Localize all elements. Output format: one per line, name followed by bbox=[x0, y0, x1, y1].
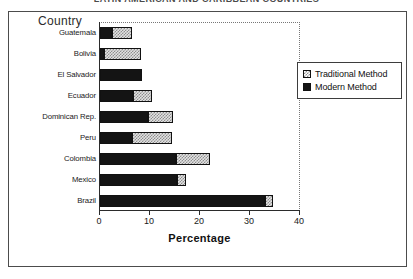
category-label: Ecuador bbox=[7, 91, 96, 100]
bar-segment-traditional bbox=[177, 174, 186, 186]
bar-segment-modern bbox=[100, 90, 133, 102]
legend-label-traditional: Traditional Method bbox=[315, 69, 387, 79]
bar-row bbox=[100, 69, 300, 81]
category-label: Mexico bbox=[7, 175, 96, 184]
category-label: El Salvador bbox=[7, 70, 96, 79]
x-axis-tick-label: 40 bbox=[287, 216, 311, 226]
x-axis-tick bbox=[299, 211, 300, 215]
x-axis-tick-label: 0 bbox=[87, 216, 111, 226]
bar-segment-modern bbox=[100, 111, 148, 123]
category-label: Dominican Rep. bbox=[7, 112, 96, 121]
bar-segment-traditional bbox=[132, 132, 172, 144]
bar-segment-traditional bbox=[148, 111, 173, 123]
category-label: Peru bbox=[7, 133, 96, 142]
bar-segment-traditional bbox=[265, 195, 273, 207]
x-axis-tick bbox=[199, 211, 200, 215]
bar-segment-modern bbox=[100, 195, 265, 207]
bar-row bbox=[100, 90, 300, 102]
chart-title: LATIN AMERICAN AND CARIBBEAN COUNTRIES bbox=[0, 0, 413, 3]
bar-segment-traditional bbox=[133, 90, 152, 102]
bar-row bbox=[100, 195, 300, 207]
bar-row bbox=[100, 153, 300, 165]
x-axis-tick bbox=[149, 211, 150, 215]
traditional-swatch-icon bbox=[303, 70, 311, 78]
bar-segment-modern bbox=[100, 153, 176, 165]
x-axis-tick bbox=[249, 211, 250, 215]
category-axis-labels: GuatemalaBoliviaEl SalvadorEcuadorDomini… bbox=[0, 22, 96, 211]
bar-segment-modern bbox=[100, 132, 132, 144]
bar-segment-traditional bbox=[176, 153, 210, 165]
bar-segment-modern bbox=[100, 69, 142, 81]
bar-row bbox=[100, 27, 300, 39]
category-label: Guatemala bbox=[7, 28, 96, 37]
bar-row bbox=[100, 111, 300, 123]
bars-layer bbox=[100, 22, 300, 211]
modern-swatch-icon bbox=[303, 83, 311, 91]
bar-segment-traditional bbox=[104, 48, 141, 60]
bar-segment-modern bbox=[100, 27, 112, 39]
x-axis-title: Percentage bbox=[99, 232, 300, 244]
bar-segment-traditional bbox=[112, 27, 132, 39]
bar-row bbox=[100, 132, 300, 144]
legend-label-modern: Modern Method bbox=[315, 82, 377, 92]
chart-screenshot: LATIN AMERICAN AND CARIBBEAN COUNTRIES C… bbox=[0, 0, 413, 279]
x-axis-tick-label: 30 bbox=[237, 216, 261, 226]
legend-item-traditional: Traditional Method bbox=[303, 67, 396, 80]
category-label: Colombia bbox=[7, 154, 96, 163]
category-label: Brazil bbox=[7, 196, 96, 205]
bar-row bbox=[100, 48, 300, 60]
category-label: Bolivia bbox=[7, 49, 96, 58]
bar-row bbox=[100, 174, 300, 186]
x-axis-tick-label: 20 bbox=[187, 216, 211, 226]
chart-legend: Traditional Method Modern Method bbox=[297, 62, 402, 99]
x-axis-tick-label: 10 bbox=[137, 216, 161, 226]
x-axis-tick bbox=[99, 211, 100, 215]
legend-item-modern: Modern Method bbox=[303, 80, 396, 93]
bar-segment-modern bbox=[100, 174, 177, 186]
